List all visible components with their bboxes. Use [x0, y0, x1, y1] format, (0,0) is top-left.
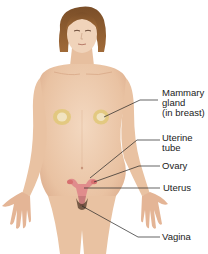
label-mammary-gland: Mammary gland (in breast)	[162, 88, 205, 118]
label-ovary: Ovary	[162, 161, 187, 171]
label-uterus: Uterus	[163, 183, 191, 193]
label-line: tube	[162, 143, 193, 153]
label-uterine-tube: Uterine tube	[162, 133, 193, 153]
label-line: Uterus	[163, 183, 191, 193]
label-line: Vagina	[162, 232, 191, 242]
mammary-gland-right	[93, 110, 109, 125]
anatomy-figure	[0, 0, 208, 254]
label-line: (in breast)	[162, 108, 205, 118]
label-vagina: Vagina	[162, 232, 191, 242]
left-hand	[2, 192, 31, 229]
label-line: Ovary	[162, 161, 187, 171]
mammary-gland-left	[53, 109, 71, 125]
right-hand	[141, 192, 168, 229]
right-arm	[121, 78, 150, 196]
